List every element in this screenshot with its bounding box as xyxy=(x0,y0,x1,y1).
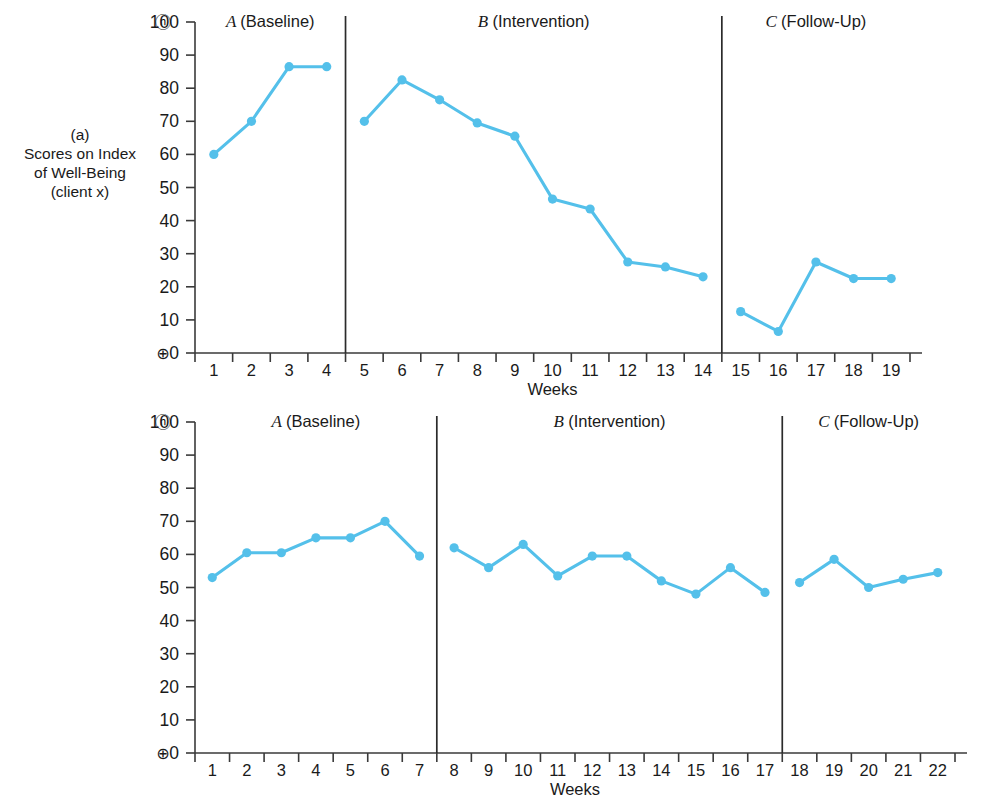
data-point xyxy=(435,95,444,104)
data-point xyxy=(622,551,631,560)
chart-panel-a: (a) Scores on Index of Well-Being (clien… xyxy=(0,0,1001,400)
y-tick-label: 20 xyxy=(160,277,180,297)
phase-label-text: C (Follow-Up) xyxy=(818,412,919,431)
data-point xyxy=(311,533,320,542)
panel-a-plot: 0102030405060708090100ⓝ⊕1234567891011121… xyxy=(0,0,1001,400)
data-point xyxy=(811,257,820,266)
y-tick-label: 20 xyxy=(160,677,180,697)
x-tick-label: 17 xyxy=(756,761,774,779)
series-line-b xyxy=(364,80,703,277)
x-tick-label: 19 xyxy=(882,361,900,379)
data-point xyxy=(899,575,908,584)
data-point xyxy=(774,327,783,336)
data-point xyxy=(449,543,458,552)
x-tick-label: 7 xyxy=(435,361,444,379)
x-tick-label: 3 xyxy=(284,361,293,379)
phase-label-text: B (Intervention) xyxy=(554,412,666,431)
y-tick-label: 40 xyxy=(160,211,180,231)
x-tick-label: 8 xyxy=(449,761,458,779)
y-tick-label: 10 xyxy=(160,710,180,730)
data-point xyxy=(473,118,482,127)
data-point xyxy=(760,588,769,597)
x-tick-label: 10 xyxy=(514,761,532,779)
data-point xyxy=(209,150,218,159)
data-point xyxy=(726,563,735,572)
data-point xyxy=(247,117,256,126)
x-tick-label: 20 xyxy=(859,761,877,779)
data-point xyxy=(380,517,389,526)
data-point xyxy=(415,551,424,560)
y-tick-label: 90 xyxy=(160,45,180,65)
x-tick-label: 1 xyxy=(209,361,218,379)
data-point xyxy=(657,576,666,585)
data-point xyxy=(691,590,700,599)
data-point xyxy=(519,540,528,549)
x-tick-label: 10 xyxy=(543,361,561,379)
y-tick-label: 90 xyxy=(160,445,180,465)
x-tick-label: 1 xyxy=(208,761,217,779)
data-point xyxy=(322,62,331,71)
data-point xyxy=(623,257,632,266)
x-tick-label: 18 xyxy=(844,361,862,379)
x-tick-label: 8 xyxy=(473,361,482,379)
y-tick-label: 60 xyxy=(160,544,180,564)
panel-b-plot: 0102030405060708090100ⓝ⊕1234567891011121… xyxy=(0,400,1001,790)
data-point xyxy=(360,117,369,126)
data-point xyxy=(849,274,858,283)
data-point xyxy=(795,578,804,587)
x-tick-label: 18 xyxy=(790,761,808,779)
data-point xyxy=(346,533,355,542)
data-point xyxy=(397,75,406,84)
phase-label-c: C (Follow-Up) xyxy=(818,412,919,431)
x-tick-label: 3 xyxy=(277,761,286,779)
phase-label-a: A (Baseline) xyxy=(225,12,315,31)
x-tick-label: 4 xyxy=(311,761,320,779)
data-point xyxy=(588,551,597,560)
data-point xyxy=(736,307,745,316)
x-tick-label: 2 xyxy=(247,361,256,379)
floor-marker-icon: ⊕ xyxy=(156,744,169,763)
phase-label-a: A (Baseline) xyxy=(271,412,361,431)
x-tick-label: 15 xyxy=(731,361,749,379)
data-point xyxy=(887,274,896,283)
x-tick-label: 12 xyxy=(619,361,637,379)
x-tick-label: 19 xyxy=(825,761,843,779)
data-point xyxy=(277,548,286,557)
phase-label-c: C (Follow-Up) xyxy=(765,12,866,31)
series-line-c xyxy=(741,262,892,332)
data-point xyxy=(661,262,670,271)
y-tick-label: 70 xyxy=(160,511,180,531)
x-tick-label: 9 xyxy=(484,761,493,779)
x-axis-label: Weeks xyxy=(550,780,600,798)
x-tick-label: 13 xyxy=(618,761,636,779)
x-tick-label: 22 xyxy=(929,761,947,779)
x-tick-label: 2 xyxy=(242,761,251,779)
x-tick-label: 14 xyxy=(694,361,712,379)
ceiling-marker-icon: ⓝ xyxy=(155,413,171,432)
data-point xyxy=(510,132,519,141)
phase-label-text: A (Baseline) xyxy=(271,412,361,431)
x-tick-label: 11 xyxy=(582,361,599,379)
data-point xyxy=(864,583,873,592)
data-point xyxy=(484,563,493,572)
y-tick-label: 0 xyxy=(169,743,179,763)
x-tick-label: 16 xyxy=(769,361,787,379)
x-tick-label: 7 xyxy=(415,761,424,779)
x-tick-label: 12 xyxy=(583,761,601,779)
series-line-b xyxy=(454,544,765,594)
x-axis-label: Weeks xyxy=(527,380,577,398)
y-tick-label: 50 xyxy=(160,578,180,598)
data-point xyxy=(829,555,838,564)
y-tick-label: 30 xyxy=(160,244,180,264)
x-tick-label: 5 xyxy=(360,361,369,379)
y-tick-label: 10 xyxy=(160,310,180,330)
phase-label-text: A (Baseline) xyxy=(225,12,315,31)
data-point xyxy=(208,573,217,582)
data-point xyxy=(698,272,707,281)
phase-label-b: B (Intervention) xyxy=(478,12,590,31)
x-tick-label: 14 xyxy=(652,761,670,779)
data-point xyxy=(586,204,595,213)
floor-marker-icon: ⊕ xyxy=(156,344,169,363)
x-tick-label: 16 xyxy=(721,761,739,779)
ceiling-marker-icon: ⓝ xyxy=(155,13,171,32)
